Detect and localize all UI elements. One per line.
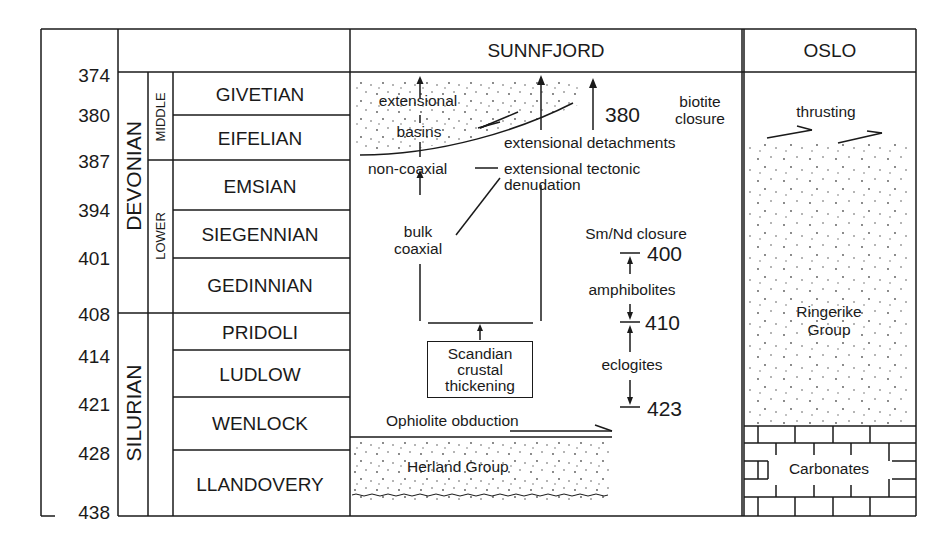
stage-pridoli: PRIDOLI — [222, 323, 298, 342]
age-label: 408 — [60, 305, 110, 324]
label-extensional-basins: extensional — [379, 93, 457, 109]
age-label: 421 — [60, 395, 110, 414]
stage-siegennian: SIEGENNIAN — [201, 225, 318, 244]
stage-emsian: EMSIAN — [224, 177, 297, 196]
label-scandian-crustal-thickening: Scandian — [448, 346, 513, 362]
age-label: 428 — [60, 444, 110, 463]
column-header-oslo: OSLO — [804, 41, 857, 60]
label-extensional-tectonic-denudation: extensional tectonic — [504, 161, 640, 177]
ringerike-group-stipple — [748, 140, 912, 424]
column-header-sunnfjord: SUNNFJORD — [487, 41, 604, 60]
stage-givetian: GIVETIAN — [216, 85, 305, 104]
stage-eifelian: EIFELIAN — [218, 129, 302, 148]
age-label: 380 — [60, 106, 110, 125]
label-scandian-crustal-thickening: thickening — [445, 378, 515, 394]
label-extensional-basins: basins — [397, 124, 442, 140]
age-label: 414 — [60, 347, 110, 366]
age-label: 387 — [60, 152, 110, 171]
label-extensional-detachments: extensional detachments — [504, 135, 675, 151]
age-label: 374 — [60, 66, 110, 85]
stage-ludlow: LUDLOW — [219, 365, 300, 384]
label-extensional-tectonic-denudation: denudation — [504, 177, 581, 193]
age-400: 400 — [647, 243, 682, 264]
age-380: 380 — [605, 104, 640, 125]
period-silurian: SILURIAN — [123, 365, 144, 462]
label-herland-group: Herland Group — [407, 459, 509, 475]
label-amphibolites: amphibolites — [588, 282, 675, 298]
age-label: 438 — [60, 503, 110, 522]
period-devonian: DEVONIAN — [123, 121, 144, 231]
label-thrusting: thrusting — [796, 104, 855, 120]
epoch-lower: LOWER — [154, 212, 167, 260]
age-410: 410 — [645, 312, 680, 333]
label-ringerike-group: Group — [807, 322, 850, 338]
label-biotite-closure: closure — [675, 111, 725, 127]
label-ophiolite-obduction: Ophiolite obduction — [386, 413, 519, 429]
label-ringerike-group: Ringerike — [796, 304, 861, 320]
stage-llandovery: LLANDOVERY — [196, 475, 323, 494]
age-label: 394 — [60, 201, 110, 220]
stratigraphic-correlation-diagram: SUNNFJORD OSLO 374 380 387 394 401 408 4… — [0, 0, 948, 538]
label-carbonates: Carbonates — [787, 461, 871, 477]
label-bulk-coaxial: bulk — [404, 224, 432, 240]
epoch-middle: MIDDLE — [154, 92, 167, 141]
label-scandian-crustal-thickening: crustal — [457, 362, 503, 378]
label-smnd-closure: Sm/Nd closure — [585, 226, 687, 242]
label-eclogites: eclogites — [601, 357, 662, 373]
label-bulk-coaxial: coaxial — [394, 241, 442, 257]
age-423: 423 — [647, 398, 682, 419]
label-non-coaxial: non-coaxial — [368, 161, 447, 177]
stage-gedinnian: GEDINNIAN — [207, 276, 313, 295]
label-biotite-closure: biotite — [679, 94, 720, 110]
stage-wenlock: WENLOCK — [212, 414, 308, 433]
age-label: 401 — [60, 249, 110, 268]
